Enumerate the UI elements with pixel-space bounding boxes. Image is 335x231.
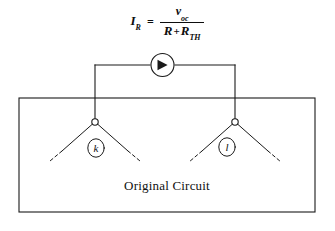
branch-k-right-dashed	[128, 151, 140, 161]
node-label-k: k	[88, 140, 104, 156]
original-circuit-caption: Original Circuit	[19, 178, 315, 194]
branch-l-right-dashed	[268, 151, 281, 162]
circuit-diagram	[0, 0, 335, 231]
branch-l-right	[238, 124, 268, 151]
node-label-l: l	[219, 139, 235, 155]
branch-l-left-dashed	[189, 151, 202, 162]
branch-k-left-dashed	[50, 151, 62, 161]
figure-canvas: IR = voc R+RTH	[0, 0, 335, 231]
original-circuit-box	[19, 98, 315, 212]
